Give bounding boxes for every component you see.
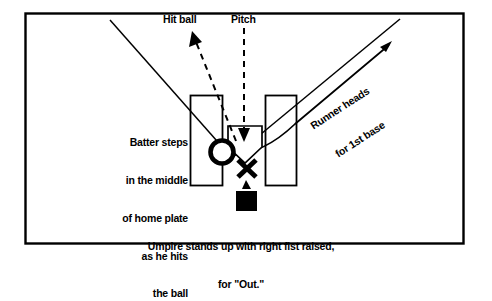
umpire-square-marker [236, 191, 257, 211]
batter-circle-marker [211, 141, 234, 164]
label-hit-ball: Hit ball [163, 14, 196, 26]
diagram-caption: Umpire stands up with right fist raised,… [96, 215, 386, 301]
batter-note-line-2: in the middle [88, 174, 188, 187]
batter-note-line-1: Batter steps [88, 136, 188, 149]
label-runner-line2: for 1st base [328, 116, 391, 163]
batters-box-right [266, 96, 297, 186]
caption-line-2: for "Out." [96, 278, 386, 291]
label-runner-line1: Runner heads [308, 84, 371, 131]
label-pitch: Pitch [231, 14, 256, 26]
caption-line-1: Umpire stands up with right fist raised, [96, 240, 386, 253]
